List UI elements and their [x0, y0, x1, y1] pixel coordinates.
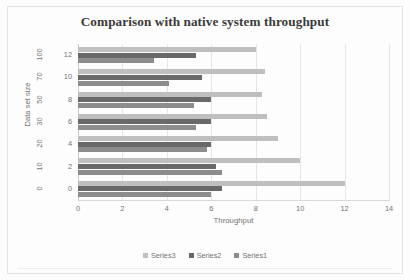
- legend-swatch-icon: [234, 253, 239, 258]
- y-axis-group-label: 30: [35, 112, 44, 132]
- legend-item-series1[interactable]: Series1: [234, 251, 267, 260]
- bar-series3: [78, 181, 345, 186]
- x-axis-tick-label: 4: [155, 204, 179, 213]
- chart-title: Comparison with native system throughput: [0, 14, 410, 30]
- legend-label: Series1: [242, 251, 267, 260]
- y-axis-group-label: 20: [35, 134, 44, 154]
- bar-series3: [78, 158, 300, 163]
- bar-series3: [78, 47, 256, 52]
- chart-container: Comparison with native system throughput…: [0, 0, 410, 280]
- x-axis-tick-label: 6: [199, 204, 223, 213]
- bar-group: [78, 66, 389, 88]
- legend-item-series2[interactable]: Series2: [189, 251, 222, 260]
- y-axis-tick-label: 6: [54, 117, 72, 126]
- bar-series3: [78, 136, 278, 141]
- legend-divider: [18, 268, 392, 269]
- y-axis-tick-label: 4: [54, 139, 72, 148]
- bar-series2: [78, 97, 211, 102]
- y-axis-tick-label: 12: [54, 50, 72, 59]
- x-axis-tick-label: 0: [66, 204, 90, 213]
- legend-item-series3[interactable]: Series3: [143, 251, 176, 260]
- chart-legend: Series3Series2Series1: [0, 251, 410, 260]
- bar-group: [78, 44, 389, 66]
- bar-series1: [78, 58, 154, 63]
- y-axis-tick-label: 8: [54, 95, 72, 104]
- bar-series2: [78, 75, 202, 80]
- bar-series2: [78, 164, 216, 169]
- y-axis-tick-label: 2: [54, 162, 72, 171]
- bar-group: [78, 178, 389, 200]
- bar-series3: [78, 92, 262, 97]
- bar-group: [78, 133, 389, 155]
- y-axis-group-label: 0: [35, 178, 44, 198]
- bar-series1: [78, 170, 222, 175]
- legend-swatch-icon: [189, 253, 194, 258]
- y-axis-tick-label: 0: [54, 184, 72, 193]
- bar-series1: [78, 125, 196, 130]
- bar-series2: [78, 186, 222, 191]
- bar-group: [78, 89, 389, 111]
- x-axis-tick-label: 2: [110, 204, 134, 213]
- bar-series1: [78, 81, 169, 86]
- bar-series2: [78, 142, 211, 147]
- plot-area: [78, 44, 389, 200]
- bar-series3: [78, 114, 267, 119]
- y-axis-tick-label: 10: [54, 72, 72, 81]
- legend-label: Series3: [151, 251, 176, 260]
- gridline: [389, 44, 390, 200]
- y-axis-group-label: 10: [35, 156, 44, 176]
- x-axis-tick-label: 14: [377, 204, 401, 213]
- x-axis-tick-label: 10: [288, 204, 312, 213]
- x-axis-tick-label: 12: [333, 204, 357, 213]
- bar-series3: [78, 69, 265, 74]
- bar-group: [78, 155, 389, 177]
- x-axis-title: Throughput: [78, 216, 389, 225]
- legend-swatch-icon: [143, 253, 148, 258]
- bar-series1: [78, 147, 207, 152]
- y-axis-group-label: 100: [35, 45, 44, 65]
- bar-group: [78, 111, 389, 133]
- y-axis-title: Data set size: [23, 70, 32, 140]
- y-axis-group-label: 70: [35, 67, 44, 87]
- bar-series2: [78, 53, 196, 58]
- x-axis-line: [78, 200, 390, 201]
- bar-series1: [78, 192, 211, 197]
- bar-series1: [78, 103, 194, 108]
- legend-label: Series2: [197, 251, 222, 260]
- x-axis-tick-label: 8: [244, 204, 268, 213]
- bar-series2: [78, 119, 211, 124]
- y-axis-group-label: 50: [35, 89, 44, 109]
